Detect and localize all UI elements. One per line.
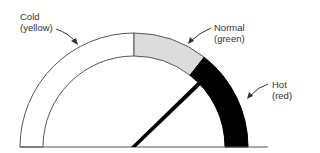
hot-leader-arrow	[247, 84, 268, 99]
normal-label: Normal (green)	[214, 22, 245, 44]
normal-leader-arrow	[188, 28, 211, 44]
cold-label-color: (yellow)	[20, 22, 53, 33]
cold-leader-arrow	[56, 29, 78, 45]
normal-label-name: Normal	[214, 22, 245, 33]
normal-zone	[134, 33, 204, 75]
hot-label-color: (red)	[272, 90, 292, 101]
cold-label: Cold (yellow)	[20, 11, 53, 33]
hot-label: Hot (red)	[272, 79, 292, 101]
normal-label-color: (green)	[214, 33, 245, 44]
cold-zone	[20, 33, 134, 147]
cold-label-name: Cold	[20, 11, 53, 22]
hot-label-name: Hot	[272, 79, 292, 90]
needle	[131, 75, 210, 147]
hot-zone	[190, 57, 248, 147]
